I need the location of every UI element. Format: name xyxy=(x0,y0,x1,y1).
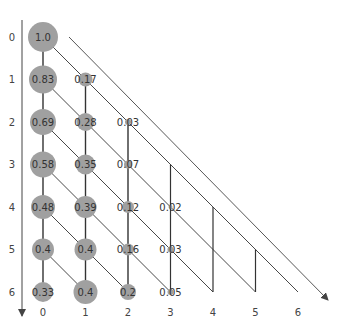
lattice-node: 0.58 xyxy=(30,152,56,178)
lattice-node: 0.69 xyxy=(30,109,56,135)
node-value: 0.16 xyxy=(117,244,139,255)
lattice-node: 0.48 xyxy=(31,195,55,219)
lattice-node: 0.12 xyxy=(117,201,139,213)
node-value: 0.83 xyxy=(32,74,54,85)
outer-diagonal-arrow xyxy=(69,37,328,300)
node-value: 0.17 xyxy=(74,74,96,85)
row-label: 0 xyxy=(9,32,15,43)
col-label: 5 xyxy=(252,307,258,318)
node-value: 0.03 xyxy=(159,244,181,255)
lattice-node: 0.03 xyxy=(117,117,139,128)
node-value: 0.33 xyxy=(32,287,54,298)
lattice-node: 0.03 xyxy=(159,244,181,255)
col-axis-labels: 0123456 xyxy=(40,307,301,318)
node-value: 0.4 xyxy=(78,244,94,255)
col-label: 0 xyxy=(40,307,46,318)
row-label: 2 xyxy=(9,117,15,128)
node-value: 0.4 xyxy=(35,244,51,255)
row-label: 4 xyxy=(9,202,15,213)
row-label: 3 xyxy=(9,159,15,170)
diagonal-line-1 xyxy=(43,80,256,293)
lattice-node: 1.0 xyxy=(28,22,58,52)
lattice-nodes: 1.00.830.170.690.280.030.580.350.070.480… xyxy=(28,22,182,304)
col-label: 2 xyxy=(125,307,131,318)
row-label: 6 xyxy=(9,287,15,298)
lattice-node: 0.28 xyxy=(74,113,96,131)
lattice-node: 0.05 xyxy=(159,287,181,298)
lattice-node: 0.02 xyxy=(159,202,181,213)
lattice-node: 0.4 xyxy=(75,239,97,261)
node-value: 0.35 xyxy=(74,159,96,170)
node-value: 0.39 xyxy=(74,202,96,213)
row-label: 1 xyxy=(9,74,15,85)
lattice-node: 0.4 xyxy=(74,280,98,304)
lattice-node: 0.83 xyxy=(29,66,57,94)
row-axis-labels: 0123456 xyxy=(9,32,15,298)
node-value: 0.4 xyxy=(78,287,94,298)
lattice-node: 0.39 xyxy=(74,196,96,218)
lattice-node: 0.35 xyxy=(74,155,96,175)
diagram-canvas: 1.00.830.170.690.280.030.580.350.070.480… xyxy=(0,0,342,328)
lattice-node: 0.2 xyxy=(120,284,136,300)
col-label: 1 xyxy=(82,307,88,318)
lattice-node: 0.4 xyxy=(32,239,54,261)
lattice-node: 0.07 xyxy=(117,159,139,170)
lattice-node: 0.17 xyxy=(74,73,96,87)
node-value: 0.48 xyxy=(32,202,54,213)
node-value: 0.12 xyxy=(117,202,139,213)
lattice-node: 0.33 xyxy=(32,282,54,302)
node-value: 0.28 xyxy=(74,117,96,128)
col-label: 4 xyxy=(210,307,216,318)
col-label: 6 xyxy=(295,307,301,318)
node-value: 0.03 xyxy=(117,117,139,128)
col-label: 3 xyxy=(167,307,173,318)
node-value: 0.02 xyxy=(159,202,181,213)
row-label: 5 xyxy=(9,244,15,255)
diagonal-line-3 xyxy=(43,165,171,293)
node-value: 1.0 xyxy=(35,32,51,43)
node-value: 0.07 xyxy=(117,159,139,170)
lattice-node: 0.16 xyxy=(117,244,139,256)
node-value: 0.05 xyxy=(159,287,181,298)
node-value: 0.58 xyxy=(32,159,54,170)
node-value: 0.2 xyxy=(120,287,136,298)
node-value: 0.69 xyxy=(32,117,54,128)
lattice-diagram: 1.00.830.170.690.280.030.580.350.070.480… xyxy=(0,0,342,328)
